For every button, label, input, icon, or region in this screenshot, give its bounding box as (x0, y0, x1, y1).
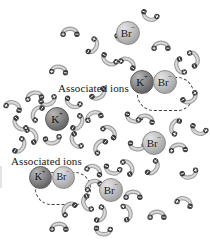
water-dipole-molecule (144, 157, 167, 181)
ion-symbol: Br− (147, 137, 161, 149)
water-dipole-molecule (163, 114, 183, 138)
ion-charge: − (114, 181, 118, 188)
bromide-ion: Br− (99, 178, 123, 202)
water-dipole-molecule (49, 218, 69, 232)
water-dipole-molecule (96, 51, 120, 73)
water-dipole-molecule (42, 133, 64, 150)
ion-charge: − (131, 24, 135, 31)
bromide-ion: Br− (142, 131, 166, 155)
ion-symbol: Br− (57, 171, 70, 182)
water-dipole-molecule (186, 122, 210, 142)
ion-charge: − (157, 134, 161, 141)
water-dipole-molecule (167, 138, 188, 154)
water-dipole-molecule (93, 203, 113, 227)
ion-symbol: K+ (136, 76, 147, 88)
ion-association-diagram: Br−K+Br−K+Br−K+Br−Br− Associated ionsAss… (0, 0, 210, 240)
water-dipole-molecule (137, 8, 161, 28)
ion-symbol: Br− (104, 184, 118, 196)
ion-symbol: K+ (51, 113, 62, 125)
ion-charge: + (42, 168, 45, 175)
scan-edge-mark-left (0, 166, 2, 188)
water-dipole-molecule (151, 37, 171, 51)
water-dipole-molecule (60, 23, 80, 37)
water-dipole-molecule (173, 190, 197, 210)
ion-charge: − (66, 168, 69, 175)
associated-ions-label: Associated ions (11, 155, 82, 167)
ion-symbol: Br− (121, 27, 135, 39)
bromide-ion: Br− (52, 166, 75, 189)
ion-charge: + (144, 73, 148, 80)
water-dipole-molecule (2, 94, 26, 114)
water-dipole-molecule (48, 60, 69, 76)
water-dipole-molecule (120, 201, 139, 224)
associated-ions-label: Associated ions (58, 82, 129, 94)
water-dipole-molecule (179, 167, 202, 186)
potassium-ion: K+ (45, 107, 69, 131)
bromide-ion: Br− (153, 70, 177, 94)
ion-charge: + (59, 110, 63, 117)
water-dipole-molecule (186, 46, 206, 70)
ion-symbol: Br− (158, 76, 172, 88)
ion-symbol: K+ (35, 171, 45, 182)
bromide-ion: Br− (116, 21, 140, 45)
water-dipole-molecule (87, 133, 110, 157)
water-dipole-molecule (147, 206, 167, 220)
water-dipole-molecule (117, 50, 141, 72)
water-dipole-molecule (123, 186, 143, 200)
water-dipole-molecule (92, 225, 113, 240)
potassium-ion: K+ (29, 166, 52, 189)
potassium-ion: K+ (130, 70, 154, 94)
ion-charge: − (168, 73, 172, 80)
water-dipole-molecule (119, 154, 141, 178)
water-dipole-molecule (81, 104, 105, 124)
